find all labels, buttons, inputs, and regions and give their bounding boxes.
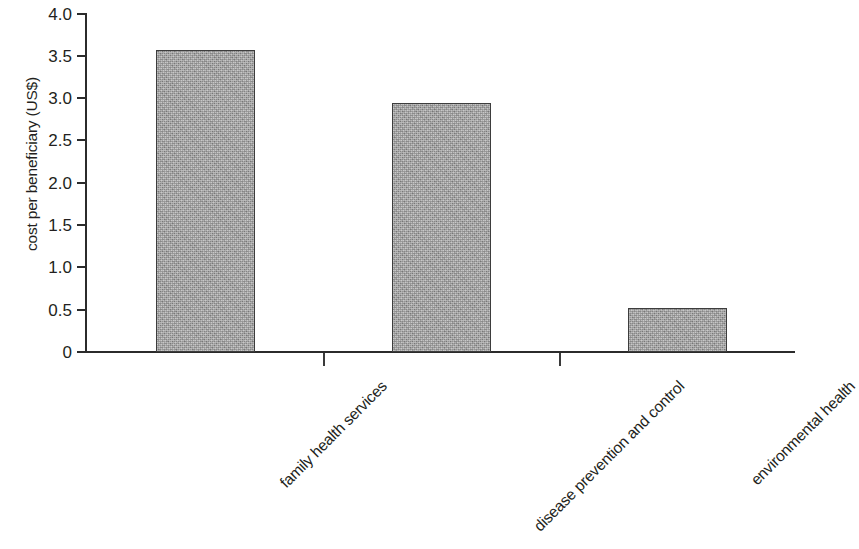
x-separator-mark <box>559 353 561 366</box>
x-category-label: family health services <box>276 377 390 491</box>
bar <box>392 103 491 352</box>
y-tick-label: 2.0 <box>26 174 72 191</box>
y-tick-label: 1.0 <box>26 259 72 276</box>
bar <box>156 50 255 352</box>
bar <box>628 308 727 352</box>
y-tick-label: 3.5 <box>26 47 72 64</box>
x-category-label: disease prevention and control <box>530 377 688 535</box>
y-tick-label: 0 <box>26 344 72 361</box>
y-tick-label: 0.5 <box>26 301 72 318</box>
y-axis-tick-labels: 4.0 3.5 3.0 2.5 2.0 1.5 1.0 0.5 0 <box>20 0 72 549</box>
y-axis-line <box>85 13 87 353</box>
y-tick-label: 3.0 <box>26 90 72 107</box>
y-tick-label: 2.5 <box>26 132 72 149</box>
y-tick-label: 4.0 <box>26 5 72 22</box>
x-separator-mark <box>323 353 325 366</box>
y-tick-label: 1.5 <box>26 217 72 234</box>
x-category-label: environmental health <box>747 377 859 489</box>
